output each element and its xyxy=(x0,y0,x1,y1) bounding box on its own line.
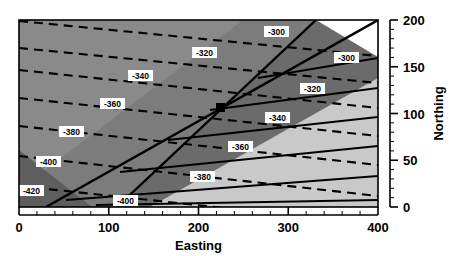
contour-label-text: -300 xyxy=(268,27,285,37)
contour-label-text: -400 xyxy=(40,157,57,167)
contour-label--380-dashed: -380 xyxy=(59,126,84,137)
contour-label-text: -380 xyxy=(194,172,211,182)
x-axis-title: Easting xyxy=(175,238,222,253)
contour-label-text: -420 xyxy=(23,186,40,196)
y-tick-label-100: 100 xyxy=(403,107,425,122)
contour-label--300-solid: -300 xyxy=(334,52,359,63)
y-tick-label-0: 0 xyxy=(403,200,410,215)
y-tick-label-150: 150 xyxy=(403,60,425,75)
contour-label--360-solid: -360 xyxy=(228,141,253,152)
contour-label-text: -320 xyxy=(196,48,213,58)
contour-label--340-dashed: -340 xyxy=(128,70,153,81)
contour-label--320-solid: -320 xyxy=(300,83,325,94)
y-tick-label-200: 200 xyxy=(403,13,425,28)
contour-label--380-solid: -380 xyxy=(190,171,215,182)
well-location-marker[interactable] xyxy=(216,103,225,112)
contour-label--300-dashed: -300 xyxy=(264,26,289,37)
contour-label-text: -340 xyxy=(132,71,149,81)
y-axis: 0 50 100 150 200 Northing xyxy=(390,13,446,215)
x-tick-label-100: 100 xyxy=(98,220,120,235)
contour-label-text: -360 xyxy=(232,142,249,152)
contour-label-text: -360 xyxy=(104,99,121,109)
contour-label-text: -380 xyxy=(63,127,80,137)
x-tick-label-400: 400 xyxy=(367,220,389,235)
y-axis-title: Northing xyxy=(431,86,446,140)
contour-label--340-solid: -340 xyxy=(265,112,290,123)
contour-map-figure: -300 -320 -340 -360 -380 -400 xyxy=(0,0,451,256)
x-tick-label-300: 300 xyxy=(277,220,299,235)
contour-label--420-dashed: -420 xyxy=(19,185,44,196)
contour-label--360-dashed: -360 xyxy=(100,98,125,109)
x-tick-label-0: 0 xyxy=(15,220,22,235)
contour-label--400-dashed: -400 xyxy=(36,156,61,167)
contour-label--320-dashed: -320 xyxy=(192,47,217,58)
contour-label-text: -340 xyxy=(269,113,286,123)
contour-label-text: -320 xyxy=(304,84,321,94)
x-axis: 0 100 200 300 400 Easting xyxy=(15,207,388,253)
y-tick-label-50: 50 xyxy=(403,153,417,168)
contour-label--400-solid: -400 xyxy=(113,195,138,206)
contour-label-text: -300 xyxy=(338,53,355,63)
contour-label-text: -400 xyxy=(117,196,134,206)
x-tick-label-200: 200 xyxy=(188,220,210,235)
contour-plot-svg: -300 -320 -340 -360 -380 -400 xyxy=(0,0,451,256)
